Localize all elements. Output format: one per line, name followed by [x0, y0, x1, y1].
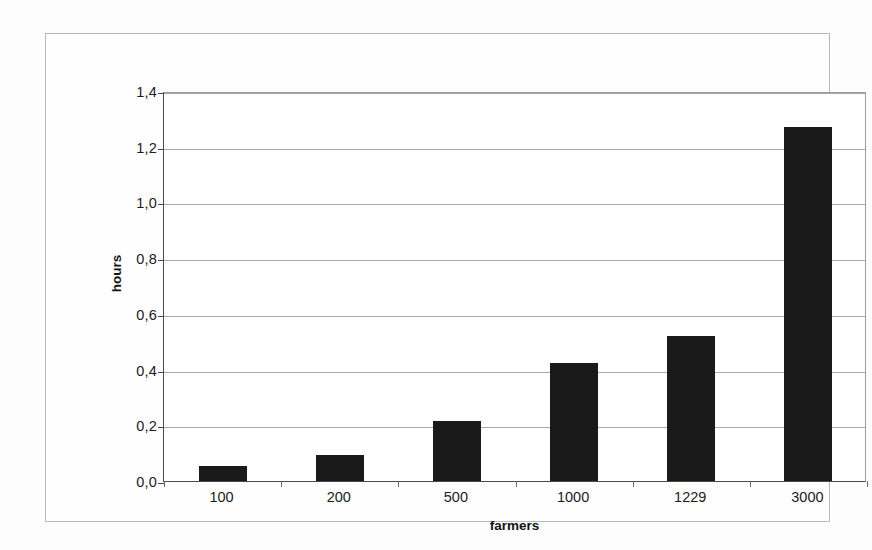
gridline — [164, 93, 865, 94]
x-axis-tick-label: 1229 — [674, 489, 706, 505]
x-axis-tick-mark — [750, 481, 751, 487]
figure-frame: hours 0,00,20,40,60,81,01,21,4 100200500… — [45, 33, 830, 522]
y-axis-tick-mark — [158, 93, 164, 94]
y-axis-tick-mark — [158, 204, 164, 205]
x-axis-tick-label: 100 — [209, 489, 233, 505]
x-axis-title: farmers — [163, 518, 866, 533]
y-axis-tick-label: 1,4 — [111, 84, 157, 100]
x-axis-tick-label: 1000 — [557, 489, 589, 505]
y-axis-tick-label: 0,0 — [111, 474, 157, 490]
y-axis-tick-mark — [158, 260, 164, 261]
plot-area — [163, 92, 866, 482]
gridline — [164, 204, 865, 205]
x-axis-tick-mark — [633, 481, 634, 487]
x-axis-tick-labels: 100200500100012293000 — [163, 489, 866, 513]
x-axis-tick-label: 500 — [444, 489, 468, 505]
y-axis-tick-mark — [158, 316, 164, 317]
bar — [199, 466, 247, 481]
x-axis-tick-mark — [281, 481, 282, 487]
x-axis-tick-label: 3000 — [791, 489, 823, 505]
y-axis-tick-mark — [158, 149, 164, 150]
gridline — [164, 149, 865, 150]
bar — [550, 363, 598, 481]
bar — [784, 127, 832, 481]
gridline — [164, 316, 865, 317]
y-axis-tick-labels: 0,00,20,40,60,81,01,21,4 — [101, 92, 157, 482]
x-axis-tick-mark — [398, 481, 399, 487]
x-axis-tick-mark — [516, 481, 517, 487]
y-axis-tick-mark — [158, 427, 164, 428]
bar — [667, 336, 715, 481]
y-axis-tick-label: 0,4 — [111, 363, 157, 379]
gridline — [164, 260, 865, 261]
gridline — [164, 427, 865, 428]
x-axis-tick-mark — [867, 481, 868, 487]
y-axis-tick-label: 0,8 — [111, 251, 157, 267]
x-axis-tick-label: 200 — [327, 489, 351, 505]
y-axis-tick-mark — [158, 372, 164, 373]
bar — [433, 421, 481, 481]
y-axis-tick-label: 0,6 — [111, 307, 157, 323]
y-axis-tick-label: 1,2 — [111, 140, 157, 156]
x-axis-tick-mark — [164, 481, 165, 487]
y-axis-tick-label: 0,2 — [111, 418, 157, 434]
y-axis-tick-label: 1,0 — [111, 195, 157, 211]
bar — [316, 455, 364, 481]
gridline — [164, 372, 865, 373]
